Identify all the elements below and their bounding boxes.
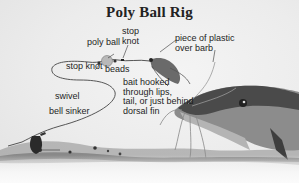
label-bait: bait hooked through lips, tail, or just … bbox=[123, 78, 194, 116]
label-poly-ball: poly ball bbox=[87, 38, 120, 48]
label-beads: beads bbox=[105, 65, 130, 75]
label-swivel: swivel bbox=[55, 92, 80, 102]
poly-ball-rig-diagram: Poly Ball Rig poly ball stop knot piece … bbox=[0, 0, 299, 183]
label-bell-sinker: bell sinker bbox=[49, 107, 90, 117]
label-stop-knot-left: stop knot bbox=[66, 62, 103, 72]
label-piece-of-plastic: piece of plastic over barb bbox=[175, 34, 235, 53]
diagram-title: Poly Ball Rig bbox=[0, 4, 299, 21]
bottom-fade bbox=[0, 155, 299, 183]
bead bbox=[113, 59, 116, 62]
stop-knot bbox=[121, 59, 124, 61]
label-stop-knot-top: stop knot bbox=[122, 27, 139, 46]
